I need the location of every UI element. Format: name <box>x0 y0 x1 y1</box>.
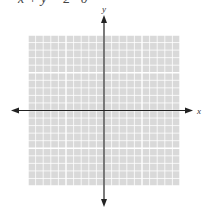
x-axis-label: x <box>196 106 201 116</box>
y-axis-arrow-up-icon <box>101 15 107 23</box>
coordinate-plane: x y <box>0 0 207 210</box>
x-axis-arrow-left-icon <box>11 108 19 114</box>
x-axis-arrow-right-icon <box>185 108 193 114</box>
y-axis-label: y <box>101 4 106 14</box>
y-axis-arrow-down-icon <box>101 199 107 207</box>
